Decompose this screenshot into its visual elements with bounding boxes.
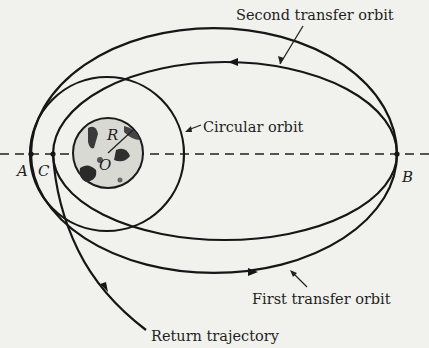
label-point-c: C: [38, 162, 50, 180]
point-a-dot: [28, 151, 33, 156]
label-circular-orbit: Circular orbit: [203, 119, 304, 135]
label-return-trajectory: Return trajectory: [151, 328, 280, 344]
label-point-a: A: [15, 162, 28, 180]
arrow-left-icon: [228, 58, 238, 66]
orbit-diagram: Second transfer orbit Circular orbit Fir…: [0, 0, 429, 348]
point-b-dot: [394, 151, 399, 156]
label-radius-r: R: [106, 126, 118, 144]
label-second-transfer-orbit: Second transfer orbit: [236, 7, 394, 23]
point-c-dot: [50, 151, 55, 156]
label-first-transfer-orbit: First transfer orbit: [252, 291, 391, 307]
label-point-b: B: [401, 168, 413, 186]
label-center-o: O: [99, 156, 111, 174]
